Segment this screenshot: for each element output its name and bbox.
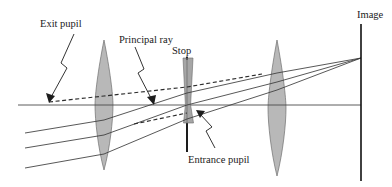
principal-ray-label: Principal ray	[119, 34, 174, 45]
image-label: Image	[357, 9, 384, 20]
exit-pupil-label: Exit pupil	[40, 18, 82, 29]
optical-diagram-figure: Exit pupil Principal ray Stop Entrance p…	[0, 0, 392, 187]
entrance-pupil-leader-line	[200, 114, 215, 148]
marginal-ray-lower	[25, 58, 361, 168]
entrance-pupil-label: Entrance pupil	[188, 154, 250, 165]
right-lens	[268, 40, 286, 176]
entrance-pupil-shape	[183, 58, 194, 123]
exit-pupil-leader-line	[50, 34, 74, 99]
pupil-construction-dashed-upper	[49, 74, 262, 102]
stop-label: Stop	[172, 45, 191, 56]
ray-bundle	[25, 58, 361, 168]
optical-diagram-canvas: Exit pupil Principal ray Stop Entrance p…	[0, 0, 392, 187]
principal-ray-solid	[25, 58, 361, 148]
